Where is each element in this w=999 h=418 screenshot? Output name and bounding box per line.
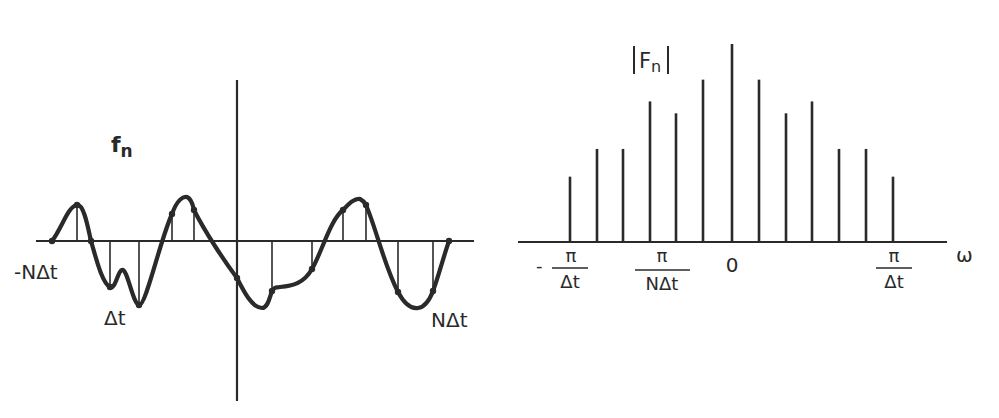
svg-text:π: π <box>889 245 900 266</box>
svg-text:π: π <box>657 245 668 266</box>
sample-point <box>88 238 94 244</box>
sample-point <box>107 284 113 290</box>
svg-text:Fn: Fn <box>639 49 661 76</box>
sample-point <box>446 238 452 244</box>
sample-point <box>269 288 275 294</box>
tick-neg-pi-over-dt: - π Δt <box>536 245 588 292</box>
spectrum-plot: Fn ω - π Δt π NΔt 0 π Δt <box>518 44 973 294</box>
sample-point <box>309 266 315 272</box>
neg-n-dt-label: -NΔt <box>14 260 58 284</box>
dt-label: Δt <box>104 306 126 330</box>
svg-text:π: π <box>566 245 577 266</box>
sample-point <box>169 211 175 217</box>
tick-zero: 0 <box>726 253 739 277</box>
spectral-lines <box>570 44 893 242</box>
omega-label: ω <box>956 243 973 267</box>
sample-point <box>430 288 436 294</box>
sample-point <box>136 302 142 308</box>
n-dt-label: NΔt <box>431 308 468 332</box>
sample-point <box>340 207 346 213</box>
fn-label: fn <box>111 132 133 161</box>
sample-point <box>234 275 240 281</box>
sample-point <box>74 202 80 208</box>
sample-stems <box>52 205 449 305</box>
signal-curve <box>52 197 449 308</box>
sample-point <box>395 289 401 295</box>
sample-point <box>49 238 55 244</box>
fn-magnitude-label: Fn <box>634 46 668 76</box>
svg-text:Δt: Δt <box>884 271 903 292</box>
tick-pi-over-n-dt: π NΔt <box>635 245 690 294</box>
svg-text:Δt: Δt <box>560 271 579 292</box>
sample-point <box>191 207 197 213</box>
fourier-diagram: fn -NΔt Δt NΔt Fn ω - π Δt π NΔt 0 π Δt <box>0 0 999 418</box>
sample-point <box>363 202 369 208</box>
tick-pi-over-dt: π Δt <box>876 245 912 292</box>
svg-text:NΔt: NΔt <box>646 273 679 294</box>
time-domain-plot: fn -NΔt Δt NΔt <box>14 80 474 401</box>
svg-text:-: - <box>536 255 543 276</box>
